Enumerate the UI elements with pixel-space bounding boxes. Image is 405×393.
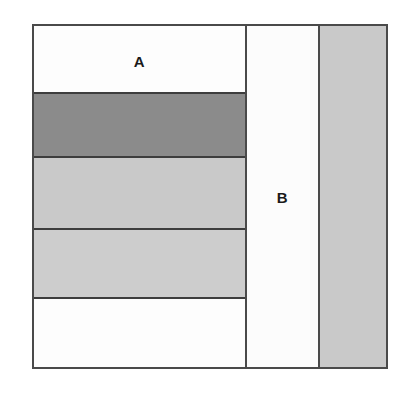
diagram-frame: A B (32, 24, 388, 369)
diagram-canvas: A B (0, 0, 405, 393)
band-a-2[interactable] (34, 94, 245, 158)
region-a-label: A (34, 54, 245, 69)
band-a-3[interactable] (34, 158, 245, 230)
region-c-column[interactable] (320, 26, 386, 367)
region-a-column[interactable]: A (34, 26, 247, 367)
band-a-5[interactable] (34, 299, 245, 367)
region-b-column[interactable]: B (247, 26, 320, 367)
region-b-label: B (247, 190, 318, 205)
band-a-4[interactable] (34, 230, 245, 299)
